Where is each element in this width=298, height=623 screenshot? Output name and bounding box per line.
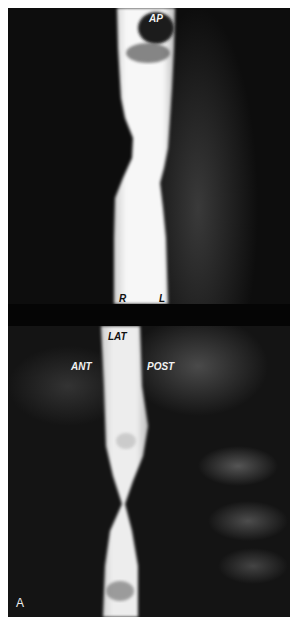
lat-label: LAT: [108, 331, 127, 342]
ap-esophagus-contrast: [8, 8, 290, 304]
ap-label: AP: [149, 13, 163, 24]
lateral-view-panel: LAT ANT POST A: [8, 326, 290, 617]
left-label: L: [159, 293, 165, 304]
posterior-label: POST: [147, 361, 174, 372]
right-label: R: [119, 293, 126, 304]
anterior-label: ANT: [71, 361, 92, 372]
radiograph-figure: AP R L LAT ANT POST A: [8, 8, 290, 617]
ap-view-panel: AP R L: [8, 8, 290, 304]
panel-letter: A: [16, 596, 24, 610]
panel-divider: [8, 304, 290, 326]
